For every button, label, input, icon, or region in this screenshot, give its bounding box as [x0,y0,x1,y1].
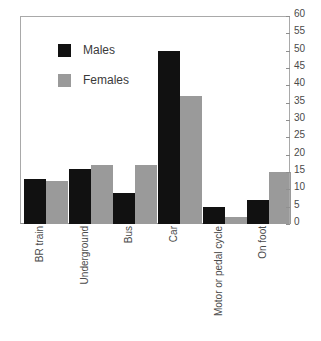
legend-label: Females [83,73,129,87]
y-axis-tick-mark [286,155,290,156]
bar-females [46,181,68,224]
y-axis-tick-label: 55 [294,26,305,36]
y-axis-tick-mark [286,51,290,52]
y-axis-tick-label: 60 [294,9,305,19]
bar-males [203,207,225,224]
y-axis-tick-label: 15 [294,165,305,175]
bar-males [24,179,46,224]
y-axis-tick-mark [286,85,290,86]
y-axis-tick-label: 0 [294,217,300,227]
bar-group [158,16,202,224]
y-axis-tick-mark [286,172,290,173]
bar-males [69,169,91,224]
bar-females [180,96,202,224]
y-axis-tick-label: 25 [294,130,305,140]
y-axis-tick-mark [286,16,290,17]
legend-swatch-icon [58,44,71,57]
x-axis-label: Motor or pedal cycle [213,226,224,316]
bar-males [247,200,269,224]
y-axis-tick-label: 35 [294,96,305,106]
x-axis-label: Bus [123,226,134,243]
bar-group [113,16,157,224]
legend-label: Males [83,43,115,57]
y-axis-tick-mark [286,224,290,225]
legend-swatch-icon [58,74,71,87]
y-axis-tick-mark [286,68,290,69]
bar-group [203,16,247,224]
y-axis-tick-label: 20 [294,148,305,158]
x-axis-label: BR train [34,226,45,262]
y-axis-tick-label: 50 [294,44,305,54]
y-axis-tick-mark [286,189,290,190]
y-axis-tick-label: 10 [294,182,305,192]
y-axis-tick-mark [286,120,290,121]
x-axis-label: Underground [79,226,90,284]
y-axis-tick-mark [286,103,290,104]
bar-females [91,165,113,224]
y-axis-tick-label: 5 [294,200,300,210]
y-axis-tick-mark [286,207,290,208]
y-axis-tick-label: 30 [294,113,305,123]
bar-group [247,16,291,224]
x-axis-label: Car [168,226,179,242]
y-axis-tick-mark [286,33,290,34]
bar-males [113,193,135,224]
bar-males [158,51,180,224]
bar-females [135,165,157,224]
bar-chart: 051015202530354045505560 BR trainUndergr… [0,0,321,341]
bar-females [225,217,247,224]
y-axis-tick-mark [286,137,290,138]
x-axis-label: On foot [257,226,268,259]
y-axis: 051015202530354045505560 [289,16,321,224]
y-axis-tick-label: 45 [294,61,305,71]
y-axis-tick-label: 40 [294,78,305,88]
x-axis-category-labels: BR trainUndergroundBusCarMotor or pedal … [20,226,288,338]
